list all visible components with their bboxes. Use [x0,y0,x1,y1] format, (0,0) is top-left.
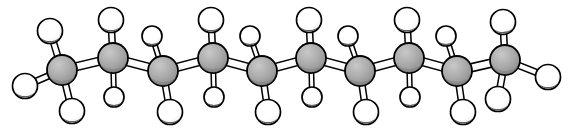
hydrogen-sphere [395,8,420,33]
hydrogen-atom [60,99,85,124]
hydrogen-atom [536,65,561,90]
hydrogen-sphere [99,8,124,33]
molecule-canvas [0,0,575,133]
molecule-figure [0,0,575,133]
carbon-atom [198,43,228,73]
hydrogen-sphere [256,100,281,125]
carbon-atom [296,43,326,73]
hydrogen-sphere [400,87,420,107]
hydrogen-atom [256,100,281,125]
hydrogen-atom [338,26,358,46]
carbon-sphere [490,45,520,75]
carbon-sphere [148,56,178,86]
carbon-atom [148,56,178,86]
hydrogen-sphere [354,100,379,125]
hydrogen-sphere [486,87,511,112]
hydrogen-sphere [60,99,85,124]
carbon-sphere [296,43,326,73]
hydrogen-atom [491,10,516,35]
carbon-sphere [247,56,277,86]
hydrogen-sphere [436,26,456,46]
hydrogen-atom [436,26,456,46]
hydrogen-atom [38,19,63,44]
hydrogen-sphere [491,10,516,35]
hydrogen-atom [104,87,124,107]
hydrogen-atom [13,74,38,99]
hydrogen-sphere [38,19,63,44]
hydrogen-atom [99,8,124,33]
carbon-atom [394,43,424,73]
hydrogen-sphere [204,87,224,107]
carbon-atom [345,56,375,86]
carbon-sphere [394,43,424,73]
carbon-sphere [345,56,375,86]
carbon-atom [247,56,277,86]
hydrogen-sphere [240,26,260,46]
hydrogen-atom [395,8,420,33]
hydrogen-sphere [142,26,162,46]
hydrogen-atom [486,87,511,112]
carbon-sphere [198,43,228,73]
hydrogen-atom [240,26,260,46]
hydrogen-sphere [338,26,358,46]
hydrogen-atom [451,100,476,125]
hydrogen-sphere [104,87,124,107]
hydrogen-sphere [297,8,322,33]
hydrogen-sphere [451,100,476,125]
hydrogen-atom [199,8,224,33]
carbon-atom [490,45,520,75]
hydrogen-atom [158,100,183,125]
hydrogen-sphere [158,100,183,125]
carbon-atom [98,43,128,73]
hydrogen-sphere [536,65,561,90]
carbon-sphere [98,43,128,73]
carbon-atom [47,55,77,85]
hydrogen-sphere [302,87,322,107]
hydrogen-atom [302,87,322,107]
carbon-sphere [47,55,77,85]
hydrogen-atom [142,26,162,46]
hydrogen-atom [204,87,224,107]
hydrogen-atom [400,87,420,107]
hydrogen-atom [354,100,379,125]
carbon-sphere [442,56,472,86]
hydrogen-sphere [13,74,38,99]
carbon-atom [442,56,472,86]
hydrogen-sphere [199,8,224,33]
hydrogen-atom [297,8,322,33]
